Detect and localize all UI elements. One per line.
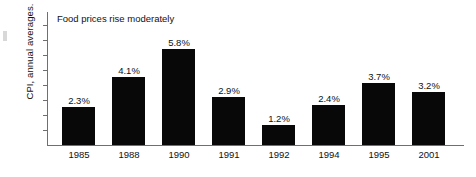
bar-value-label: 2.3% (54, 95, 104, 106)
bar (262, 125, 295, 145)
y-axis-tick (43, 55, 48, 56)
y-axis-tick (43, 115, 48, 116)
x-axis-line (47, 145, 464, 146)
bar-group: 2.3% (54, 11, 104, 145)
y-axis-tick (43, 25, 48, 26)
bar-value-label: 2.4% (304, 93, 354, 104)
bar-value-label: 3.7% (354, 71, 404, 82)
plot-area: Food prices rise moderately 2.3%4.1%5.8%… (47, 12, 464, 146)
y-axis-tick (43, 85, 48, 86)
x-axis-tick-label: 1991 (204, 149, 254, 160)
x-axis-tick-label: 1988 (104, 149, 154, 160)
bar-group: 1.2% (254, 11, 304, 145)
bar-group: 5.8% (154, 11, 204, 145)
x-axis-tick-label: 1995 (354, 149, 404, 160)
scan-artifact (3, 31, 7, 41)
bar-value-label: 2.9% (204, 85, 254, 96)
y-axis-tick (43, 40, 48, 41)
bar-value-label: 5.8% (154, 37, 204, 48)
y-axis-label: CPI, annual averages. (24, 0, 35, 117)
bar (112, 77, 145, 145)
bar-value-label: 4.1% (104, 65, 154, 76)
bar (312, 105, 345, 145)
y-axis-line (47, 12, 48, 146)
chart-figure: CPI, annual averages. Food prices rise m… (0, 0, 476, 177)
bar-group: 2.9% (204, 11, 254, 145)
bar-value-label: 3.2% (404, 80, 454, 91)
x-axis-tick-label: 1990 (154, 149, 204, 160)
bar-group: 4.1% (104, 11, 154, 145)
bar-group: 2.4% (304, 11, 354, 145)
bar (362, 83, 395, 145)
x-axis-tick-label: 1985 (54, 149, 104, 160)
bar (62, 107, 95, 145)
x-axis-tick-label: 2001 (404, 149, 454, 160)
bar (162, 49, 195, 145)
y-axis-tick (43, 100, 48, 101)
y-axis-tick (43, 70, 48, 71)
bar-group: 3.7% (354, 11, 404, 145)
x-axis-tick-label: 1992 (254, 149, 304, 160)
bar (212, 97, 245, 145)
bar (412, 92, 445, 145)
bar-group: 3.2% (404, 11, 454, 145)
bar-value-label: 1.2% (254, 113, 304, 124)
y-axis-tick (43, 130, 48, 131)
x-axis-tick-label: 1994 (304, 149, 354, 160)
